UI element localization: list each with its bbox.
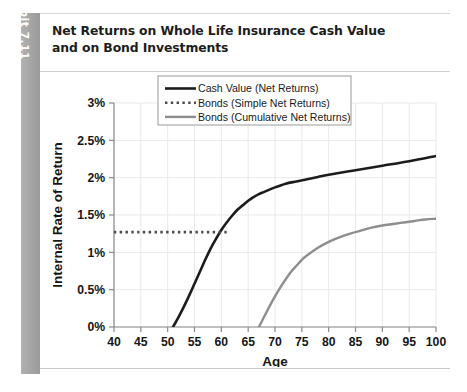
chart-gridlines xyxy=(114,103,436,327)
x-tick-label: 80 xyxy=(322,335,336,349)
series-line-1 xyxy=(173,156,436,327)
line-chart: 0%0.5%1%1.5%2%2.5%3%40455055606570758085… xyxy=(40,72,450,367)
y-tick-label: 2.5% xyxy=(77,134,105,148)
legend-label-3: Bonds (Cumulative Net Returns) xyxy=(198,111,351,123)
x-tick-label: 100 xyxy=(426,335,447,349)
x-tick-label: 50 xyxy=(161,335,175,349)
page-title: Net Returns on Whole Life Insurance Cash… xyxy=(52,23,404,56)
exhibit-card: Net Returns on Whole Life Insurance Cash… xyxy=(40,13,450,369)
y-tick-label: 0% xyxy=(87,320,105,334)
x-tick-label: 65 xyxy=(241,335,255,349)
exhibit-tab-label: Exhibit 7.11 xyxy=(19,0,31,60)
x-axis-title: Age xyxy=(262,354,288,367)
chart-tick-labels: 0%0.5%1%1.5%2%2.5%3%40455055606570758085… xyxy=(77,96,446,348)
x-tick-label: 85 xyxy=(349,335,363,349)
exhibit-tab: Exhibit 7.11 xyxy=(21,13,40,374)
x-tick-label: 75 xyxy=(295,335,309,349)
x-tick-label: 90 xyxy=(376,335,390,349)
x-tick-label: 40 xyxy=(107,335,121,349)
y-axis-title: Internal Rate of Return xyxy=(50,142,65,288)
x-tick-label: 60 xyxy=(215,335,229,349)
x-tick-label: 70 xyxy=(268,335,282,349)
y-tick-label: 1.5% xyxy=(77,208,105,222)
chart-legend: Cash Value (Net Returns)Bonds (Simple Ne… xyxy=(158,76,351,125)
card-bottom-divider xyxy=(40,368,450,369)
x-tick-label: 95 xyxy=(402,335,416,349)
y-tick-label: 0.5% xyxy=(77,283,105,297)
y-tick-label: 3% xyxy=(87,96,105,110)
x-tick-label: 55 xyxy=(188,335,202,349)
y-tick-label: 1% xyxy=(87,246,105,260)
exhibit-page: Exhibit 7.11 Net Returns on Whole Life I… xyxy=(0,0,467,392)
y-tick-label: 2% xyxy=(87,171,105,185)
chart-container: 0%0.5%1%1.5%2%2.5%3%40455055606570758085… xyxy=(40,72,450,367)
legend-label-2: Bonds (Simple Net Returns) xyxy=(198,97,330,109)
x-tick-label: 45 xyxy=(134,335,148,349)
legend-label-1: Cash Value (Net Returns) xyxy=(198,82,319,94)
